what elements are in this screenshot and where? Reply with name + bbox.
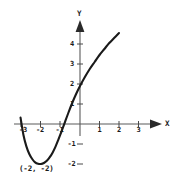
- x-tick-label--1: -1: [56, 127, 64, 134]
- x-tick-label--2: -2: [36, 127, 44, 134]
- y-tick-label--2: -2: [68, 161, 76, 168]
- graph-figure: -3 -2 -1 1 2 3 4 3 2 1 -1 -2 X Y (-2, -2…: [0, 0, 175, 185]
- x-tick-label-3: 3: [137, 127, 141, 134]
- vertex-annotation: (-2, -2): [19, 165, 54, 173]
- x-axis-arrow: [150, 120, 162, 129]
- y-tick-label-4: 4: [70, 41, 74, 48]
- x-axis-label: X: [165, 120, 170, 128]
- x-tick-label-1: 1: [98, 127, 102, 134]
- coordinate-plot: [0, 0, 175, 185]
- x-tick-label--3: -3: [19, 127, 27, 134]
- x-tick-label-2: 2: [117, 127, 121, 134]
- y-tick-label-2: 2: [70, 81, 74, 88]
- y-axis-label: Y: [77, 10, 82, 18]
- y-tick-label--1: -1: [68, 141, 76, 148]
- y-axis-arrow: [76, 20, 85, 32]
- y-tick-label-1: 1: [70, 101, 74, 108]
- y-tick-label-3: 3: [70, 61, 74, 68]
